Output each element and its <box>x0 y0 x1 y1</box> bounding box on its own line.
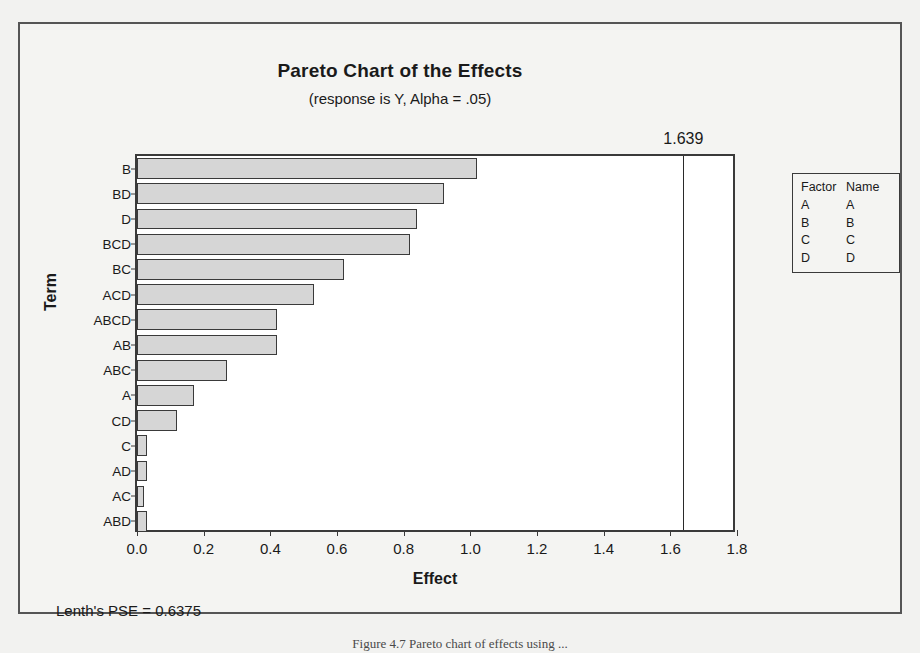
x-tick-label: 0.0 <box>127 540 148 557</box>
bar-a <box>137 385 194 406</box>
legend-cell-factor: B <box>801 215 846 233</box>
legend-row: B B <box>801 215 891 233</box>
y-tick-label-c: C <box>121 438 137 453</box>
legend-header-row: Factor Name <box>801 179 891 197</box>
x-tick-mark <box>670 530 671 536</box>
x-tick-mark <box>604 530 605 536</box>
y-tick-label-ab: AB <box>113 338 137 353</box>
x-tick-mark <box>337 530 338 536</box>
bar-acd <box>137 284 314 305</box>
bar-abc <box>137 360 227 381</box>
reference-line <box>683 156 684 530</box>
x-tick-mark <box>404 530 405 536</box>
bar-ac <box>137 486 144 507</box>
x-tick-label: 0.4 <box>260 540 281 557</box>
y-tick-label-bcd: BCD <box>102 237 137 252</box>
bar-d <box>137 209 417 230</box>
x-tick-label: 1.4 <box>593 540 614 557</box>
x-tick-mark <box>137 530 138 536</box>
legend-cell-name: A <box>846 197 891 215</box>
legend-cell-factor: D <box>801 250 846 268</box>
bar-bcd <box>137 234 410 255</box>
plot-area: BBDDBCDBCACDABCDABABCACDCADACABD 0.00.20… <box>135 154 735 532</box>
y-tick-label-b: B <box>122 161 137 176</box>
factor-name-legend: Factor Name A A B B C C D D <box>792 173 900 273</box>
bar-cd <box>137 410 177 431</box>
legend-header-factor: Factor <box>801 179 846 197</box>
x-tick-label: 1.2 <box>527 540 548 557</box>
chart-subtitle: (response is Y, Alpha = .05) <box>20 90 780 107</box>
legend-cell-name: D <box>846 250 891 268</box>
y-axis-title: Term <box>42 273 60 311</box>
legend-cell-factor: A <box>801 197 846 215</box>
y-tick-label-ac: AC <box>112 489 137 504</box>
x-tick-mark <box>204 530 205 536</box>
bar-b <box>137 158 477 179</box>
legend-cell-name: B <box>846 215 891 233</box>
bars-layer <box>137 156 733 530</box>
y-tick-label-ad: AD <box>112 464 137 479</box>
x-tick-label: 1.6 <box>660 540 681 557</box>
chart-title: Pareto Chart of the Effects <box>20 60 780 82</box>
figure-caption: Figure 4.7 Pareto chart of effects using… <box>0 636 920 652</box>
bar-abd <box>137 511 147 532</box>
y-tick-label-bd: BD <box>112 186 137 201</box>
x-tick-mark <box>470 530 471 536</box>
y-tick-label-d: D <box>121 212 137 227</box>
bar-ab <box>137 335 277 356</box>
y-tick-label-bc: BC <box>112 262 137 277</box>
x-tick-label: 1.0 <box>460 540 481 557</box>
y-tick-label-acd: ACD <box>102 287 137 302</box>
x-tick-mark <box>737 530 738 536</box>
x-tick-label: 0.6 <box>327 540 348 557</box>
legend-header-name: Name <box>846 179 891 197</box>
x-tick-label: 1.8 <box>727 540 748 557</box>
x-tick-mark <box>270 530 271 536</box>
bar-abcd <box>137 309 277 330</box>
reference-line-label: 1.639 <box>663 130 703 148</box>
legend-row: C C <box>801 232 891 250</box>
bar-bd <box>137 183 444 204</box>
bar-bc <box>137 259 344 280</box>
x-tick-label: 0.2 <box>193 540 214 557</box>
legend-row: A A <box>801 197 891 215</box>
figure-frame: Pareto Chart of the Effects (response is… <box>18 22 902 614</box>
lenths-pse-footnote: Lenth's PSE = 0.6375 <box>56 602 201 619</box>
bar-c <box>137 435 147 456</box>
x-tick-label: 0.8 <box>393 540 414 557</box>
y-tick-label-abc: ABC <box>103 363 137 378</box>
y-tick-label-abd: ABD <box>103 514 137 529</box>
bar-ad <box>137 461 147 482</box>
y-tick-label-cd: CD <box>112 413 138 428</box>
legend-cell-factor: C <box>801 232 846 250</box>
y-tick-label-a: A <box>122 388 137 403</box>
y-tick-label-abcd: ABCD <box>93 312 137 327</box>
x-axis-title: Effect <box>135 570 735 588</box>
legend-cell-name: C <box>846 232 891 250</box>
legend-row: D D <box>801 250 891 268</box>
x-tick-mark <box>537 530 538 536</box>
